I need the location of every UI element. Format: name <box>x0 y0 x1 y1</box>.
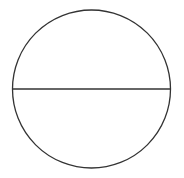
diagram-canvas <box>0 0 184 178</box>
